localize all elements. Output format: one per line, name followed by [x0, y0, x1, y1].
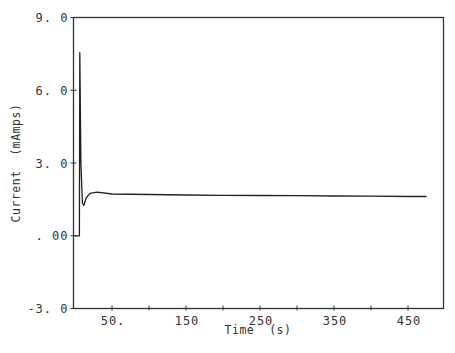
x-tick-label: 450: [397, 314, 422, 328]
x-axis-title: Time (s): [225, 323, 292, 337]
x-tick-label: 50.: [101, 314, 126, 328]
y-tick-label: 6. 0: [36, 84, 69, 98]
y-axis-ticks: 9. 06. 03. 0. 00-3. 0: [27, 11, 76, 316]
y-axis-title: Current (mAmps): [9, 104, 23, 223]
y-tick-label: 9. 0: [36, 11, 69, 25]
x-tick-label: 350: [323, 314, 348, 328]
plot-frame: [74, 18, 444, 309]
x-tick-label: 150: [175, 314, 200, 328]
y-tick-label: 3. 0: [36, 157, 69, 171]
chart: 9. 06. 03. 0. 00-3. 0 50.150250350450 Ti…: [0, 0, 455, 353]
y-tick-label: . 00: [36, 229, 69, 243]
current-series-line: [75, 53, 427, 236]
y-tick-label: -3. 0: [27, 302, 68, 316]
